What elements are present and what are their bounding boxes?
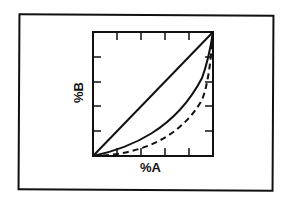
series-straight-line <box>93 32 213 156</box>
y-axis-label: %B <box>71 82 86 103</box>
left-ticks <box>93 57 101 131</box>
top-ticks <box>117 32 189 40</box>
x-axis-label: %A <box>140 160 161 175</box>
